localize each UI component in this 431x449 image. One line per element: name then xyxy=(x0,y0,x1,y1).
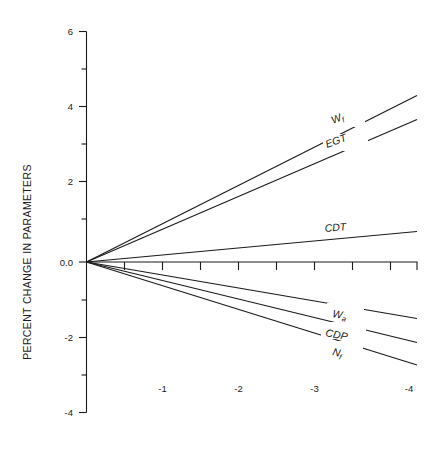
y-major-ticks xyxy=(79,32,87,413)
chart-figure: 6 4 2 0.0 -2 -4 -1 -2 -3 -4 PERCENT CHAN… xyxy=(0,0,431,449)
x-tick-label-neg2: -2 xyxy=(234,383,242,394)
series-line-nf xyxy=(87,262,418,365)
y-tick-label-4: 4 xyxy=(68,101,73,112)
y-minor-ticks xyxy=(82,69,87,375)
y-tick-label-neg4: -4 xyxy=(65,407,73,418)
series-label-cdt: CDT xyxy=(324,220,348,234)
series-line-cdt xyxy=(87,232,418,263)
y-tick-label-6: 6 xyxy=(68,26,73,37)
x-tick-label-neg1: -1 xyxy=(158,383,166,394)
series-line-wf xyxy=(87,96,418,263)
y-tick-label-2: 2 xyxy=(68,176,73,187)
series-line-wa xyxy=(87,262,418,319)
y-tick-label-neg2: -2 xyxy=(65,332,73,343)
series-line-cdp xyxy=(87,262,418,343)
y-tick-label-0: 0.0 xyxy=(60,257,73,268)
series-label-cdt-main: CDT xyxy=(324,220,348,234)
y-axis-title: PERCENT CHANGE IN PARAMETERS xyxy=(21,164,33,360)
x-tick-label-neg3: -3 xyxy=(310,383,318,394)
x-tick-label-neg4: -4 xyxy=(405,383,413,394)
x-axis-ticks xyxy=(125,262,418,270)
line-chart-svg: 6 4 2 0.0 -2 -4 -1 -2 -3 -4 PERCENT CHAN… xyxy=(0,0,431,449)
